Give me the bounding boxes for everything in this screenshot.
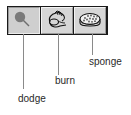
burn-label: burn bbox=[55, 76, 75, 86]
sponge-leader-line bbox=[92, 34, 93, 55]
dodge-leader-line bbox=[23, 34, 24, 89]
sponge-icon bbox=[75, 8, 105, 33]
dodge-tool-button[interactable] bbox=[8, 7, 40, 34]
burn-leader-line bbox=[58, 34, 59, 75]
burn-icon bbox=[42, 8, 72, 33]
dodge-label: dodge bbox=[18, 94, 46, 104]
burn-tool-button[interactable] bbox=[41, 7, 73, 34]
sponge-tool-button[interactable] bbox=[74, 7, 106, 34]
toning-tools-toolbar bbox=[7, 6, 108, 35]
dodge-icon bbox=[9, 8, 39, 33]
sponge-label: sponge bbox=[89, 57, 122, 67]
